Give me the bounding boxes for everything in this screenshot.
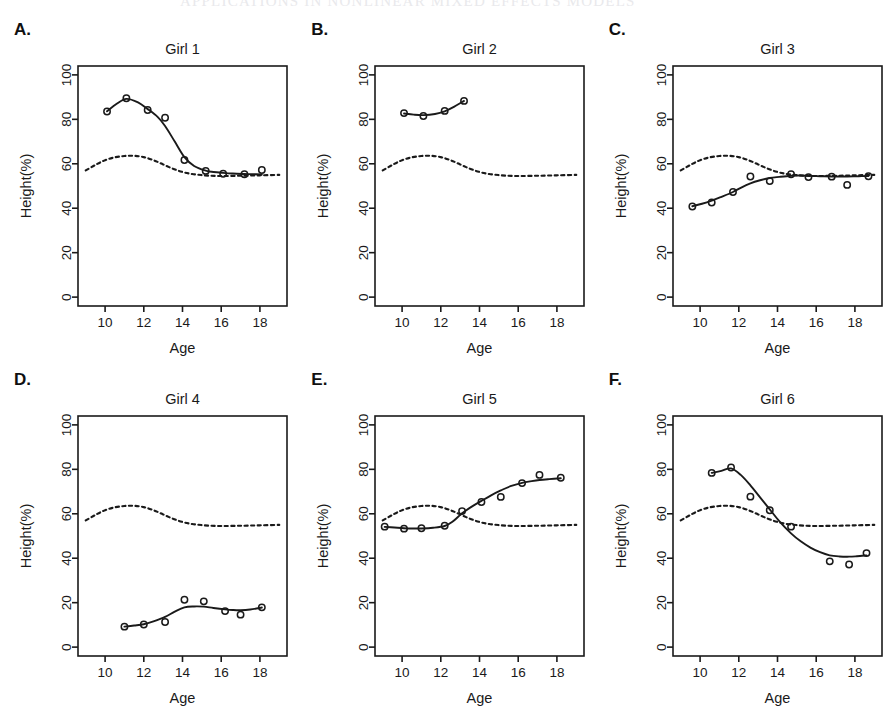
observed-data-point <box>201 598 207 604</box>
population-average-curve <box>383 506 577 526</box>
y-axis-tick-label: 80 <box>654 462 669 477</box>
x-axis-tick-label: 10 <box>395 665 410 680</box>
x-axis-title: Age <box>170 340 196 356</box>
y-axis-tick-label: 0 <box>357 293 372 301</box>
y-axis-title: Height(%) <box>613 154 629 218</box>
y-axis-tick-label: 0 <box>357 643 372 651</box>
plot-box <box>78 66 287 306</box>
x-axis-tick-label: 14 <box>175 665 191 680</box>
panel-grid: A.Girl 10204060801001012141618AgeHeight(… <box>0 14 892 714</box>
y-axis-tick-label: 100 <box>357 414 372 437</box>
subject-fit-curve <box>711 468 866 556</box>
x-axis-tick-label: 18 <box>550 315 565 330</box>
panel-title: Girl 1 <box>165 41 200 57</box>
x-axis-tick-label: 12 <box>731 315 746 330</box>
x-axis-tick-label: 14 <box>770 315 786 330</box>
subject-fit-curve <box>692 176 868 207</box>
panel-letter: E. <box>311 370 327 390</box>
x-axis-tick-label: 18 <box>252 315 267 330</box>
observed-data-point <box>846 561 852 567</box>
running-head-text: APPLICATIONS IN NONLINEAR MIXED EFFECTS … <box>180 0 880 10</box>
y-axis-tick-label: 60 <box>357 506 372 521</box>
panel-letter: D. <box>14 370 31 390</box>
population-average-curve <box>680 506 874 526</box>
y-axis-tick-label: 80 <box>357 112 372 127</box>
panel-title: Girl 3 <box>760 41 795 57</box>
plot-box <box>375 66 584 306</box>
y-axis-tick-label: 100 <box>654 414 669 437</box>
y-axis-tick-label: 40 <box>654 201 669 216</box>
panel-girl-2: B.Girl 20204060801001012141618AgeHeight(… <box>297 14 594 364</box>
subject-fit-curve <box>404 101 464 115</box>
population-average-curve <box>86 156 280 176</box>
x-axis-tick-label: 14 <box>175 315 191 330</box>
population-average-curve <box>680 156 874 176</box>
y-axis-tick-label: 40 <box>357 551 372 566</box>
panel-girl-5: E.Girl 50204060801001012141618AgeHeight(… <box>297 364 594 714</box>
y-axis-tick-label: 20 <box>60 595 75 610</box>
x-axis-tick-label: 16 <box>214 665 229 680</box>
y-axis-tick-label: 100 <box>60 414 75 437</box>
plot-box <box>375 416 584 656</box>
running-head-strip: APPLICATIONS IN NONLINEAR MIXED EFFECTS … <box>0 0 892 11</box>
y-axis-title: Height(%) <box>315 504 331 568</box>
y-axis-tick-label: 20 <box>654 245 669 260</box>
x-axis-title: Age <box>170 690 196 706</box>
y-axis-tick-label: 60 <box>60 156 75 171</box>
observed-data-point <box>162 115 168 121</box>
y-axis-tick-label: 80 <box>357 462 372 477</box>
panel-letter: B. <box>311 20 328 40</box>
observed-data-point <box>181 597 187 603</box>
y-axis-title: Height(%) <box>315 154 331 218</box>
x-axis-tick-label: 10 <box>395 315 410 330</box>
subject-fit-curve <box>385 478 561 528</box>
x-axis-tick-label: 16 <box>511 315 526 330</box>
y-axis-title: Height(%) <box>613 504 629 568</box>
y-axis-title: Height(%) <box>18 154 34 218</box>
y-axis-tick-label: 60 <box>654 506 669 521</box>
y-axis-tick-label: 80 <box>654 112 669 127</box>
y-axis-title: Height(%) <box>18 504 34 568</box>
y-axis-tick-label: 20 <box>60 245 75 260</box>
x-axis-tick-label: 12 <box>434 315 449 330</box>
y-axis-tick-label: 80 <box>60 112 75 127</box>
y-axis-tick-label: 40 <box>357 201 372 216</box>
panel-girl-3: C.Girl 30204060801001012141618AgeHeight(… <box>595 14 892 364</box>
y-axis-tick-label: 80 <box>60 462 75 477</box>
observed-data-point <box>259 167 265 173</box>
x-axis-tick-label: 18 <box>550 665 565 680</box>
y-axis-tick-label: 100 <box>654 64 669 87</box>
x-axis-tick-label: 12 <box>136 315 151 330</box>
panel-girl-6: F.Girl 60204060801001012141618AgeHeight(… <box>595 364 892 714</box>
x-axis-title: Age <box>764 340 790 356</box>
y-axis-tick-label: 100 <box>357 64 372 87</box>
x-axis-tick-label: 18 <box>847 665 862 680</box>
panel-letter: A. <box>14 20 31 40</box>
panel-title: Girl 6 <box>760 391 795 407</box>
observed-data-point <box>826 558 832 564</box>
y-axis-tick-label: 100 <box>60 64 75 87</box>
panel-title: Girl 2 <box>463 41 498 57</box>
x-axis-title: Age <box>467 340 493 356</box>
y-axis-tick-label: 0 <box>60 643 75 651</box>
x-axis-title: Age <box>467 690 493 706</box>
observed-data-point <box>747 173 753 179</box>
y-axis-tick-label: 60 <box>654 156 669 171</box>
x-axis-tick-label: 12 <box>136 665 151 680</box>
y-axis-tick-label: 0 <box>654 293 669 301</box>
x-axis-tick-label: 14 <box>472 315 488 330</box>
figure-panel-grid: APPLICATIONS IN NONLINEAR MIXED EFFECTS … <box>0 0 892 715</box>
x-axis-tick-label: 18 <box>847 315 862 330</box>
x-axis-tick-label: 12 <box>434 665 449 680</box>
subject-fit-curve <box>124 606 261 626</box>
x-axis-tick-label: 14 <box>770 665 786 680</box>
plot-box <box>673 416 882 656</box>
plot-box <box>78 416 287 656</box>
panel-title: Girl 5 <box>463 391 498 407</box>
x-axis-tick-label: 10 <box>692 315 707 330</box>
x-axis-tick-label: 16 <box>808 665 823 680</box>
y-axis-tick-label: 60 <box>60 506 75 521</box>
panel-title: Girl 4 <box>165 391 200 407</box>
y-axis-tick-label: 0 <box>60 293 75 301</box>
population-average-curve <box>383 156 577 176</box>
